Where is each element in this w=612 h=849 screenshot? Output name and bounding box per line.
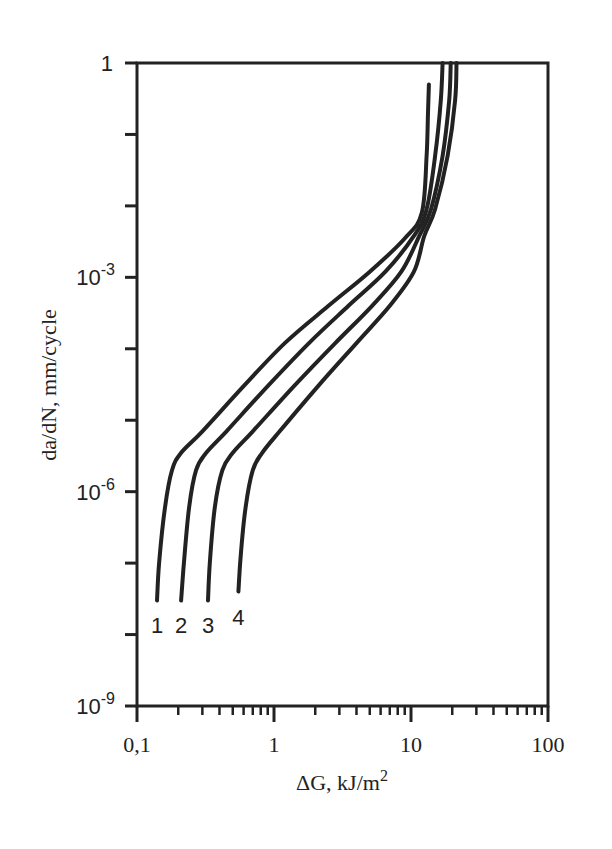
x-axis-title-text: ΔG, kJ/m <box>296 770 380 795</box>
y-tick-label: 10-6 <box>76 476 115 505</box>
plot-border <box>137 63 548 706</box>
curve-4 <box>238 63 456 592</box>
curve-1 <box>157 85 429 601</box>
y-tick-label: 10-3 <box>76 261 115 290</box>
data-curves <box>157 63 457 601</box>
x-tick-label: 100 <box>532 732 565 757</box>
curve-label-1: 1 <box>151 613 163 638</box>
x-axis-title-superscript: 2 <box>380 767 388 784</box>
curve-2 <box>181 63 443 601</box>
curve-label-3: 3 <box>202 613 214 638</box>
x-tick-label: 0,1 <box>123 732 151 757</box>
crack-growth-chart: 110-310-610-9 0,1110100 1234 da/dN, mm/c… <box>0 0 612 849</box>
y-axis-ticks <box>125 63 137 706</box>
y-axis-title: da/dN, mm/cycle <box>36 309 61 461</box>
y-tick-label: 10-9 <box>76 690 115 719</box>
curve-labels: 1234 <box>151 605 245 639</box>
curve-label-4: 4 <box>232 605 244 630</box>
x-axis-tick-labels: 0,1110100 <box>123 732 564 757</box>
x-axis-title: ΔG, kJ/m2 <box>296 767 388 795</box>
curve-label-2: 2 <box>175 613 187 638</box>
y-tick-label: 1 <box>101 51 113 76</box>
x-tick-label: 1 <box>269 732 280 757</box>
x-tick-label: 10 <box>400 732 422 757</box>
plot-frame <box>137 63 548 706</box>
y-axis-tick-labels: 110-310-610-9 <box>76 51 115 719</box>
x-axis-ticks <box>137 706 548 722</box>
